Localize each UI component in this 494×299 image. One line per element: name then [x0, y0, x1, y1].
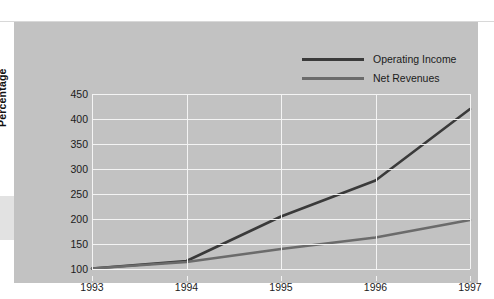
x-axis-tick-label: 1993 — [80, 282, 103, 293]
gridline-vertical — [281, 94, 282, 269]
legend-label: Net Revenues — [373, 73, 440, 84]
y-axis-tick-label: 100 — [70, 264, 88, 275]
x-axis-tick-label: 1997 — [458, 282, 481, 293]
legend-line-swatch — [302, 77, 364, 80]
x-axis-tick-labels: 19931994199519961997 — [92, 276, 470, 292]
gridline-vertical — [92, 94, 93, 269]
gridline-horizontal — [92, 269, 470, 270]
gridline-vertical — [187, 94, 188, 269]
x-axis-tick-mark — [470, 276, 471, 281]
y-axis-tick-label: 300 — [70, 164, 88, 175]
chart-panel: Percentage 100150200250300350400450 1993… — [14, 22, 478, 283]
x-axis-tick-mark — [187, 276, 188, 281]
x-axis-tick-mark — [281, 276, 282, 281]
x-axis-tick-mark — [92, 276, 93, 281]
legend-line-swatch — [302, 58, 364, 61]
gridline-vertical — [470, 94, 471, 269]
x-axis-tick-mark — [376, 276, 377, 281]
y-axis-tick-label: 450 — [70, 89, 88, 100]
legend-item: Operating Income — [302, 52, 456, 66]
plot-area — [92, 94, 470, 269]
chart-legend: Operating IncomeNet Revenues — [302, 52, 472, 86]
y-axis-title: Percentage — [0, 68, 8, 127]
gridline-vertical — [376, 94, 377, 269]
y-axis-tick-label: 250 — [70, 189, 88, 200]
y-axis-tick-label: 150 — [70, 239, 88, 250]
x-axis-tick-label: 1996 — [364, 282, 387, 293]
y-axis-tick-label: 350 — [70, 139, 88, 150]
x-axis-tick-label: 1995 — [269, 282, 292, 293]
chart-screenshot: Percentage 100150200250300350400450 1993… — [0, 0, 494, 299]
legend-item: Net Revenues — [302, 71, 440, 85]
y-axis-tick-label: 400 — [70, 114, 88, 125]
legend-label: Operating Income — [373, 54, 456, 65]
y-axis-tick-labels: 100150200250300350400450 — [48, 94, 88, 269]
y-axis-tick-label: 200 — [70, 214, 88, 225]
x-axis-tick-label: 1994 — [175, 282, 198, 293]
